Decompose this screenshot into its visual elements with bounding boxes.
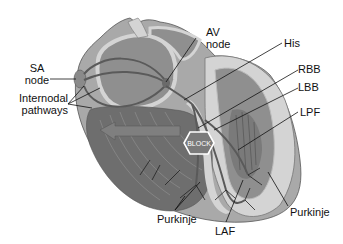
label-internodal-pathways: Internodal pathways bbox=[10, 92, 68, 116]
label-lpf: LPF bbox=[300, 106, 320, 118]
heart-conduction-diagram: BLOCK SA node Internodal pathways AV nod… bbox=[0, 0, 343, 244]
right-ventricle bbox=[86, 106, 212, 211]
label-his: His bbox=[284, 37, 300, 49]
label-internodal-line2: pathways bbox=[10, 104, 68, 116]
label-av-node-line1: AV bbox=[206, 26, 230, 38]
block-label: BLOCK bbox=[186, 138, 212, 150]
label-rbb: RBB bbox=[298, 63, 321, 75]
label-purkinje-left: Purkinje bbox=[157, 213, 197, 225]
label-laf: LAF bbox=[215, 225, 235, 237]
label-lbb: LBB bbox=[298, 81, 319, 93]
label-sa-node: SA node bbox=[22, 62, 52, 86]
label-sa-node-line1: SA bbox=[22, 62, 52, 74]
label-purkinje-right: Purkinje bbox=[290, 206, 330, 218]
label-sa-node-line2: node bbox=[22, 74, 52, 86]
label-av-node-line2: node bbox=[206, 38, 230, 50]
label-internodal-line1: Internodal bbox=[10, 92, 68, 104]
label-av-node: AV node bbox=[206, 26, 230, 50]
